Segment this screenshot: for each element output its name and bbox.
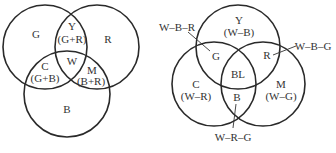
label-c-mix: (W–R) [181,90,212,103]
label-y-mix: (W–B) [224,26,255,39]
label-m-mix: (W–G) [265,90,296,103]
label-g: G [212,50,220,62]
label-c: C [192,78,199,90]
label-c: C [41,60,48,72]
venn-diagrams: G R B Y (G+R) C (G+B) M (B+R) W Y (W–B) … [0,0,336,153]
label-g: G [32,28,40,40]
subtractive-venn: Y (W–B) C (W–R) M (W–G) G R B BL W–B–R W… [159,5,331,143]
label-r: R [263,49,271,61]
label-w: W [67,55,78,67]
label-c-mix: (G+B) [31,72,60,85]
label-b: B [233,91,240,103]
label-bl: BL [231,68,245,80]
label-y: Y [235,14,243,26]
label-y-mix: (G+R) [58,33,87,46]
label-y: Y [68,20,76,32]
label-r: R [104,33,112,45]
callout-b: W–R–G [215,131,252,143]
label-m: M [276,78,286,90]
label-m-mix: (B+R) [77,75,106,88]
callout-g: W–B–R [159,21,196,33]
callout-r: W–B–G [295,40,332,52]
label-b: B [63,103,70,115]
additive-venn: G R B Y (G+R) C (G+B) M (B+R) W [3,5,139,137]
